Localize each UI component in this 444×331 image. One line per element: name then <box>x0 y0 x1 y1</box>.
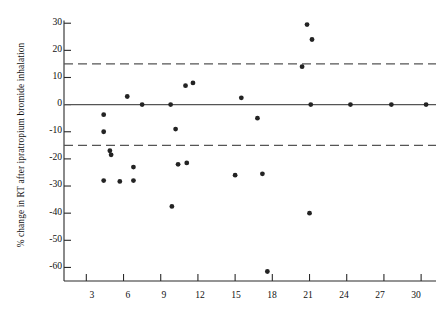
x-tick-label: 21 <box>295 290 321 300</box>
x-tick-label: 3 <box>79 290 105 300</box>
scatter-plot-figure: % change in RT after ipratropium bromide… <box>0 0 444 331</box>
x-tick-label: 24 <box>331 290 357 300</box>
x-tick-label: 27 <box>367 290 393 300</box>
x-tick-label: 6 <box>115 290 141 300</box>
x-tick-label: 12 <box>187 290 213 300</box>
x-tick-label-group: 3 6 9 12 15 18 21 24 27 30 <box>0 0 444 331</box>
x-tick-label: 15 <box>223 290 249 300</box>
x-tick-label: 30 <box>403 290 429 300</box>
x-tick-label: 9 <box>151 290 177 300</box>
x-tick-label: 18 <box>259 290 285 300</box>
